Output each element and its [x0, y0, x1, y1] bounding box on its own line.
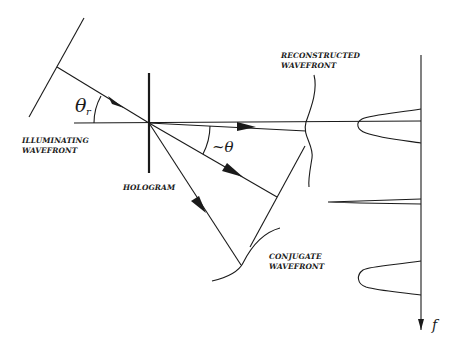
reconstructed-wavefront-curve: [305, 75, 315, 187]
conjugate-label-line2: WAVEFRONT: [269, 262, 325, 271]
theta-arc: [203, 126, 210, 154]
hologram-reconstruction-diagram: ILLUMINATING WAVEFRONT HOLOGRAM RECONSTR…: [0, 0, 459, 346]
optical-axis: [74, 121, 421, 123]
spectrum-spike-center: [328, 199, 421, 204]
conjugate-ray-arrow-icon: [191, 196, 206, 213]
spectrum-peak-top: [358, 109, 421, 143]
theta-approx-symbol: ~θ: [212, 138, 234, 156]
frequency-axis-arrow-icon: [418, 319, 424, 330]
reconstructed-ray-arrow-icon: [237, 122, 256, 131]
illuminating-label-line2: WAVEFRONT: [22, 146, 78, 155]
reconstructed-label-line1: RECONSTRUCTED: [280, 51, 360, 60]
theta-r-subscript: r: [86, 106, 92, 117]
conjugate-label-line1: CONJUGATE: [269, 252, 322, 261]
illuminating-ray: [57, 67, 149, 123]
reconstructed-ray: [149, 123, 306, 131]
spectrum-peak-bottom: [358, 261, 421, 295]
wavefront-tilt-line: [250, 146, 305, 247]
theta-ray-arrow-icon: [222, 163, 243, 177]
illuminating-label-line1: ILLUMINATING: [21, 136, 89, 145]
reconstructed-label-line2: WAVEFRONT: [281, 61, 337, 70]
theta-r-arc: [94, 96, 101, 123]
frequency-axis-label: f: [431, 317, 440, 333]
hologram-label: HOLOGRAM: [122, 183, 176, 192]
